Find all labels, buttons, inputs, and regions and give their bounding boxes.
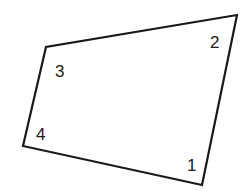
vertex-label-4: 4 — [36, 125, 45, 144]
vertex-label-2: 2 — [210, 33, 219, 52]
vertex-label-3: 3 — [55, 62, 64, 81]
vertex-label-1: 1 — [187, 156, 196, 175]
quadrilateral-diagram: 1 2 3 4 — [0, 0, 241, 194]
quadrilateral-shape — [23, 15, 237, 185]
